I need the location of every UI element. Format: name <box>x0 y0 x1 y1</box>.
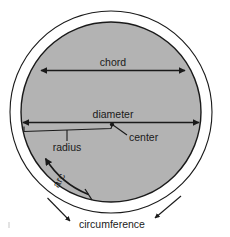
circumference-label: circumference <box>79 218 145 230</box>
diagram-canvas: chord diameter center radius arc circumf… <box>0 0 230 237</box>
scan-artifact <box>8 222 10 228</box>
center-label: center <box>129 131 159 143</box>
circle-parts-diagram: chord diameter center radius arc circumf… <box>0 0 230 237</box>
diameter-label: diameter <box>93 108 134 120</box>
circumference-leader-right <box>155 196 181 218</box>
chord-label: chord <box>100 56 126 68</box>
circumference-leader-left <box>48 198 71 221</box>
radius-label: radius <box>53 141 82 153</box>
